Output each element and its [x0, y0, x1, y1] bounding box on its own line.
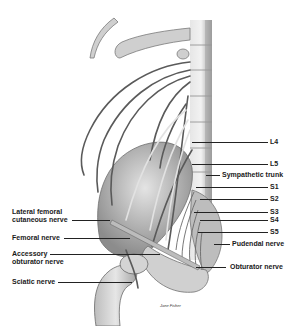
- label-pudendal-nerve: Pudendal nerve: [232, 240, 284, 248]
- label-s2: S2: [270, 195, 279, 203]
- label-sympathetic-trunk: Sympathetic trunk: [222, 171, 283, 179]
- label-l4: L4: [270, 138, 278, 146]
- leader-lateral-femoral-cutaneous: [72, 220, 110, 221]
- artist-signature: Jane Fisher: [160, 303, 181, 308]
- leader-s3: [194, 212, 268, 213]
- leader-femoral: [64, 238, 130, 239]
- label-s4: S4: [270, 216, 279, 224]
- leader-l5: [192, 164, 268, 165]
- leader-accessory-obturator: [50, 254, 160, 255]
- label-femoral-nerve: Femoral nerve: [12, 234, 60, 242]
- leader-s4: [200, 220, 268, 221]
- label-line-1: Lateral femoral: [12, 208, 68, 216]
- leader-s2: [200, 199, 268, 200]
- label-l5: L5: [270, 160, 278, 168]
- leader-sciatic: [58, 282, 132, 283]
- label-obturator-nerve: Obturator nerve: [230, 263, 283, 271]
- label-line-2: cutaneous nerve: [12, 216, 68, 224]
- leader-l4: [192, 142, 268, 143]
- label-s1: S1: [270, 183, 279, 191]
- leader-sympathetic-trunk: [206, 175, 220, 176]
- leader-pudendal: [214, 244, 230, 245]
- leader-s5: [198, 232, 268, 233]
- label-s3: S3: [270, 208, 279, 216]
- label-accessory-obturator-nerve: Accessory obturator nerve: [12, 250, 64, 266]
- leader-s1: [196, 187, 268, 188]
- leader-obturator: [196, 267, 226, 268]
- label-s5: S5: [270, 228, 279, 236]
- label-lateral-femoral-cutaneous-nerve: Lateral femoral cutaneous nerve: [12, 208, 68, 224]
- label-line-2: obturator nerve: [12, 258, 64, 266]
- ribs: [90, 18, 190, 59]
- label-sciatic-nerve: Sciatic nerve: [12, 278, 55, 286]
